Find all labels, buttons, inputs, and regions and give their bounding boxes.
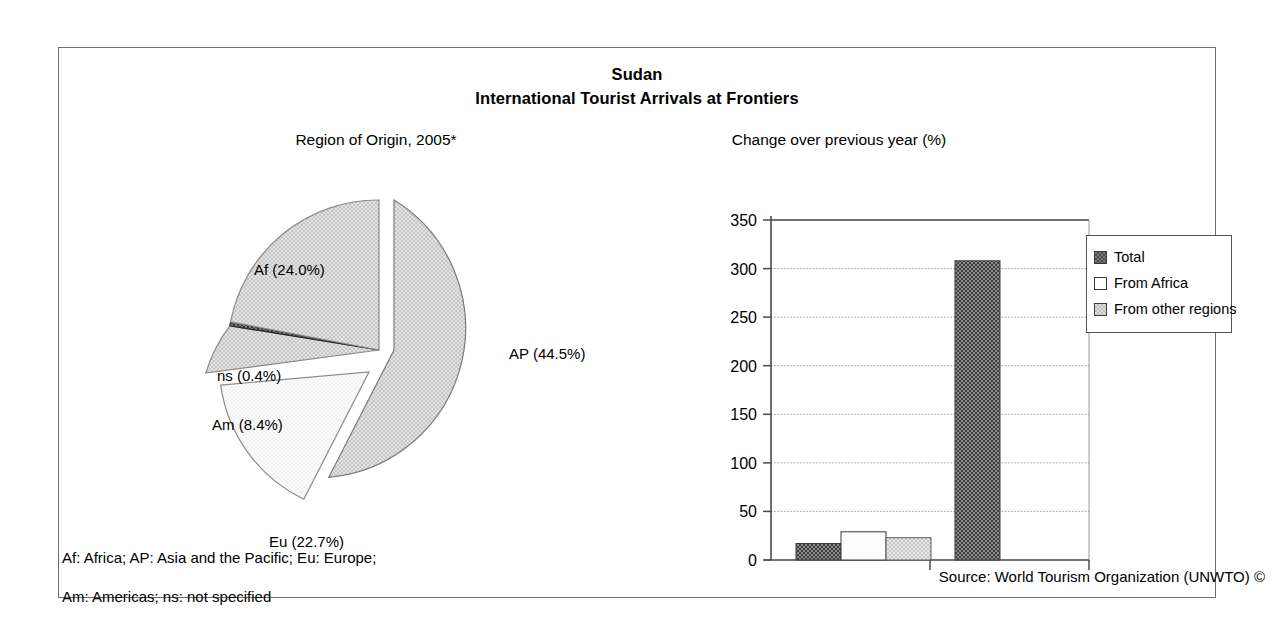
footnote-line-1: Af: Africa; AP: Asia and the Pacific; Eu…: [62, 549, 376, 566]
legend-swatch-total: [1094, 251, 1107, 264]
y-tick-marks: [763, 220, 771, 560]
legend-label-from-africa: From Africa: [1114, 275, 1188, 291]
bar-chart-svg: 0 50 100 150 200 250 300 350 2004/2003 2…: [689, 158, 1109, 578]
page-title: Sudan: [59, 65, 1215, 84]
y-tick-50: 50: [739, 503, 757, 520]
pie-label-eu: Eu (22.7%): [269, 533, 344, 550]
y-tick-200: 200: [730, 358, 757, 375]
x-tick-2004-2003: 2004/2003: [815, 576, 888, 578]
pie-chart-heading: Region of Origin, 2005*: [211, 131, 541, 149]
pie-label-ns: ns (0.4%): [217, 367, 281, 384]
bar-chart-legend: Total From Africa From other regions: [1086, 235, 1232, 333]
chart-frame: Sudan International Tourist Arrivals at …: [58, 47, 1216, 598]
legend-swatch-from-other-regions: [1094, 303, 1107, 316]
y-tick-300: 300: [730, 261, 757, 278]
y-tick-150: 150: [730, 406, 757, 423]
legend-swatch-from-africa: [1094, 277, 1107, 290]
legend-label-from-other-regions: From other regions: [1114, 301, 1237, 317]
source-credit: Source: World Tourism Organization (UNWT…: [939, 568, 1265, 585]
y-tick-250: 250: [730, 309, 757, 326]
legend-label-total: Total: [1114, 249, 1145, 265]
bar-chart: 0 50 100 150 200 250 300 350 2004/2003 2…: [689, 158, 1109, 578]
pie-label-af: Af (24.0%): [254, 261, 325, 278]
bar-2004-from-other-regions: [886, 538, 931, 560]
pie-slice-eu: [221, 372, 369, 499]
bar-chart-heading: Change over previous year (%): [629, 131, 1049, 149]
footnote-line-2: Am: Americas; ns: not specified: [62, 588, 271, 605]
bar-2004-total: [796, 544, 841, 561]
page-subtitle: International Tourist Arrivals at Fronti…: [59, 89, 1215, 108]
legend-item-from-other-regions: From other regions: [1094, 296, 1225, 322]
bar-2005-total: [955, 261, 1000, 560]
legend-item-total: Total: [1094, 244, 1225, 270]
gridlines: [771, 220, 1089, 511]
y-tick-100: 100: [730, 455, 757, 472]
y-tick-350: 350: [730, 212, 757, 229]
pie-label-ap: AP (44.5%): [509, 345, 585, 362]
pie-chart: Af (24.0%) ns (0.4%) Am (8.4%) Eu (22.7%…: [139, 158, 659, 558]
pie-label-am: Am (8.4%): [212, 416, 283, 433]
bar-2004-from-africa: [841, 532, 886, 560]
y-tick-0: 0: [748, 552, 757, 569]
legend-item-from-africa: From Africa: [1094, 270, 1225, 296]
